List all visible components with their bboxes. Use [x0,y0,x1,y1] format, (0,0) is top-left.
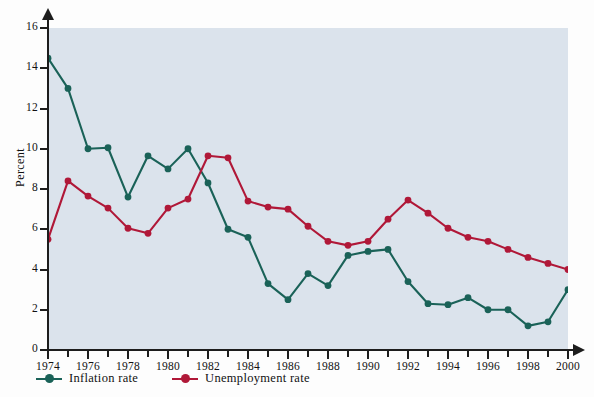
arrow-right-icon [573,344,585,356]
data-point [425,300,432,307]
y-axis-title: Percent [13,128,28,208]
legend-label-unemployment: Unemployment rate [205,371,310,386]
x-tick-major [87,350,89,359]
data-point [125,225,132,232]
data-point [245,234,252,241]
y-tick-label: 6 [8,221,38,233]
legend-label-inflation: Inflation rate [69,371,138,386]
data-point [485,238,492,245]
x-tick-major [527,350,529,359]
series-line [48,58,568,326]
data-point [385,216,392,223]
data-point [305,270,312,277]
series-canvas [48,28,568,350]
data-point [465,294,472,301]
data-point [305,223,312,230]
legend-item-unemployment[interactable]: Unemployment rate [172,371,310,386]
x-tick-minor [147,350,149,357]
circle-line-marker-icon [172,374,198,384]
data-point [445,225,452,232]
y-tick [40,188,49,190]
y-tick-label: 4 [8,262,38,274]
data-point [185,196,192,203]
data-point [165,165,172,172]
x-tick-minor [347,350,349,357]
data-point [385,246,392,253]
data-point [265,204,272,211]
data-point [105,144,112,151]
data-point [345,252,352,259]
y-tick [40,67,49,69]
data-point [245,198,252,205]
y-tick [40,309,49,311]
data-point [185,145,192,152]
data-point [85,145,92,152]
y-tick-label: 2 [8,302,38,314]
y-tick-label: 14 [8,60,38,72]
data-point [465,234,472,241]
data-point [545,318,552,325]
data-point [565,266,568,273]
data-point [85,193,92,200]
x-tick-major [47,350,49,359]
y-tick [40,228,49,230]
x-tick-major [127,350,129,359]
data-point [145,152,152,159]
data-point [265,280,272,287]
arrow-up-icon [42,8,54,20]
data-point [225,226,232,233]
data-point [405,278,412,285]
data-point [565,286,568,293]
legend-item-inflation[interactable]: Inflation rate [36,371,138,386]
x-tick-minor [267,350,269,357]
x-tick-minor [427,350,429,357]
x-tick-minor [107,350,109,357]
x-tick-major [567,350,569,359]
data-point [545,260,552,267]
data-point [225,154,232,161]
y-tick [40,148,49,150]
x-tick-major [207,350,209,359]
data-point [65,85,72,92]
data-point [205,152,212,159]
data-point [525,322,532,329]
x-tick-minor [547,350,549,357]
x-tick-major [287,350,289,359]
data-point [505,306,512,313]
data-point [285,296,292,303]
data-point [205,180,212,187]
data-point [325,238,332,245]
data-point [365,238,372,245]
x-tick-major [327,350,329,359]
data-point [485,306,492,313]
x-tick-minor [187,350,189,357]
data-point [325,282,332,289]
x-tick-minor [67,350,69,357]
circle-line-marker-icon [36,374,62,384]
y-tick [40,27,49,29]
x-tick-label: 2000 [543,360,593,372]
x-tick-minor [387,350,389,357]
data-point [145,230,152,237]
y-tick-label: 0 [8,342,38,354]
x-tick-major [367,350,369,359]
data-point [285,206,292,213]
data-point [345,242,352,249]
x-tick-minor [307,350,309,357]
x-tick-major [167,350,169,359]
data-point [505,246,512,253]
y-tick-label: 16 [8,20,38,32]
x-tick-major [407,350,409,359]
x-tick-major [247,350,249,359]
chart-figure: 0246810121416 19741976197819801982198419… [0,0,594,397]
x-tick-minor [507,350,509,357]
data-point [165,205,172,212]
data-point [445,301,452,308]
y-tick [40,108,49,110]
chart-legend: Inflation rate Unemployment rate [36,371,310,386]
data-point [425,210,432,217]
data-point [365,248,372,255]
x-tick-major [447,350,449,359]
x-tick-major [487,350,489,359]
x-tick-minor [227,350,229,357]
